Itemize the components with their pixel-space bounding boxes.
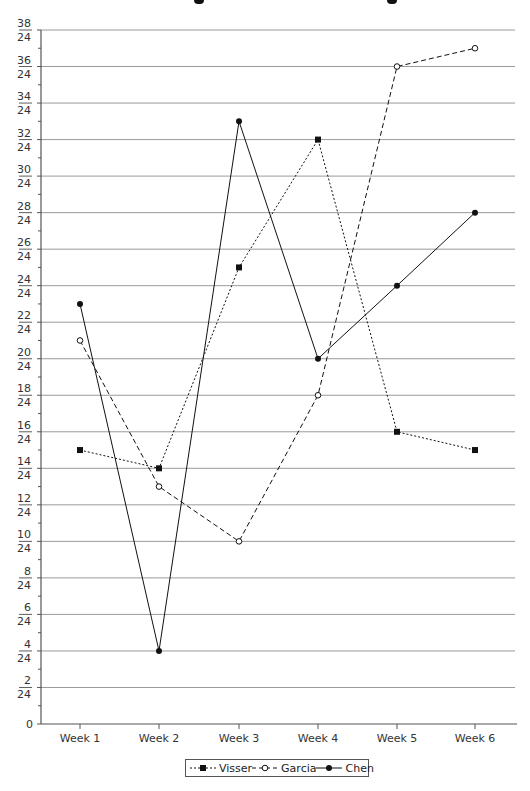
y-tick-label: 28 bbox=[17, 200, 31, 213]
svg-text:24: 24 bbox=[17, 250, 31, 263]
svg-text:24: 24 bbox=[17, 104, 31, 117]
series-lines bbox=[77, 45, 478, 653]
svg-text:24: 24 bbox=[17, 433, 31, 446]
svg-text:24: 24 bbox=[17, 396, 31, 409]
data-point bbox=[156, 648, 162, 654]
data-point bbox=[236, 264, 242, 270]
data-point bbox=[236, 539, 242, 545]
legend-item-visser: Visser bbox=[190, 762, 252, 775]
svg-text:24: 24 bbox=[17, 287, 31, 300]
filled-circle-marker-icon bbox=[316, 763, 342, 773]
y-tick-label: 6 bbox=[24, 601, 31, 614]
data-point bbox=[156, 465, 162, 471]
legend-label: Garcia bbox=[281, 762, 316, 775]
svg-text:24: 24 bbox=[17, 360, 31, 373]
y-tick-label: 20 bbox=[17, 346, 31, 359]
y-tick-label: 34 bbox=[17, 90, 31, 103]
data-point bbox=[77, 447, 83, 453]
data-point bbox=[394, 283, 400, 289]
y-tick-label: 38 bbox=[17, 17, 31, 30]
y-tick-label: 26 bbox=[17, 236, 31, 249]
y-tick-label: 32 bbox=[17, 127, 31, 140]
svg-text:24: 24 bbox=[17, 542, 31, 555]
line-chart: 0224424624824102412241424162418242024222… bbox=[0, 0, 530, 791]
legend-item-chen: Chen bbox=[316, 762, 373, 775]
y-tick-label: 30 bbox=[17, 163, 31, 176]
data-point bbox=[315, 392, 321, 398]
legend: Visser Garcia Chen bbox=[185, 759, 369, 777]
svg-text:24: 24 bbox=[17, 31, 31, 44]
svg-text:24: 24 bbox=[17, 141, 31, 154]
legend-item-garcia: Garcia bbox=[252, 762, 316, 775]
data-point bbox=[394, 64, 400, 70]
x-tick-label: Week 2 bbox=[139, 732, 180, 745]
y-tick-label: 4 bbox=[24, 638, 31, 651]
gridlines bbox=[41, 30, 515, 687]
open-circle-marker-icon bbox=[252, 763, 278, 773]
y-tick-label: 14 bbox=[17, 455, 31, 468]
x-tick-label: Week 4 bbox=[298, 732, 339, 745]
data-point bbox=[315, 137, 321, 143]
data-point bbox=[77, 301, 83, 307]
x-axis-ticks: Week 1Week 2Week 3Week 4Week 5Week 6 bbox=[60, 724, 496, 745]
y-tick-label: 0 bbox=[26, 718, 33, 731]
y-axis-ticks: 0224424624824102412241424162418242024222… bbox=[17, 17, 41, 731]
svg-text:24: 24 bbox=[17, 177, 31, 190]
data-point bbox=[472, 447, 478, 453]
series-line-garcia bbox=[80, 48, 475, 541]
svg-text:24: 24 bbox=[17, 615, 31, 628]
svg-text:24: 24 bbox=[17, 652, 31, 665]
x-tick-label: Week 1 bbox=[60, 732, 101, 745]
svg-text:24: 24 bbox=[17, 323, 31, 336]
legend-label: Chen bbox=[345, 762, 373, 775]
data-point bbox=[77, 338, 83, 344]
y-tick-label: 2 bbox=[24, 674, 31, 687]
axes bbox=[41, 30, 517, 724]
svg-text:24: 24 bbox=[17, 688, 31, 701]
series-line-visser bbox=[80, 140, 475, 469]
x-tick-label: Week 3 bbox=[219, 732, 260, 745]
data-point bbox=[156, 484, 162, 490]
legend-label: Visser bbox=[219, 762, 252, 775]
y-tick-label: 12 bbox=[17, 492, 31, 505]
svg-text:24: 24 bbox=[17, 579, 31, 592]
series-line-chen bbox=[80, 121, 475, 651]
y-tick-label: 24 bbox=[17, 273, 31, 286]
svg-text:24: 24 bbox=[17, 506, 31, 519]
data-point bbox=[236, 118, 242, 124]
data-point bbox=[472, 210, 478, 216]
svg-text:24: 24 bbox=[17, 68, 31, 81]
y-tick-label: 18 bbox=[17, 382, 31, 395]
data-point bbox=[472, 45, 478, 51]
y-tick-label: 8 bbox=[24, 565, 31, 578]
data-point bbox=[315, 356, 321, 362]
x-tick-label: Week 5 bbox=[377, 732, 418, 745]
svg-text:24: 24 bbox=[17, 214, 31, 227]
square-marker-icon bbox=[190, 763, 216, 773]
x-tick-label: Week 6 bbox=[455, 732, 496, 745]
y-tick-label: 22 bbox=[17, 309, 31, 322]
y-tick-label: 10 bbox=[17, 528, 31, 541]
svg-text:24: 24 bbox=[17, 469, 31, 482]
y-tick-label: 16 bbox=[17, 419, 31, 432]
y-tick-label: 36 bbox=[17, 54, 31, 67]
data-point bbox=[394, 429, 400, 435]
